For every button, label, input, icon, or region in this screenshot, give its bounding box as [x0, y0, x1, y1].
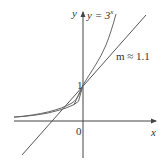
x-axis-label: x [151, 127, 156, 138]
slope-label: m ≈ 1.1 [116, 51, 150, 62]
curve-label: y = 3x [87, 9, 113, 21]
curve-label-exponent: x [110, 8, 113, 16]
curve-label-base: y = 3 [87, 9, 110, 21]
graph-canvas [0, 0, 166, 163]
y-tick-one: 1 [77, 80, 83, 91]
tangent-line [22, 15, 146, 155]
y-axis-label: y [72, 8, 77, 19]
origin-label: 0 [76, 126, 82, 137]
